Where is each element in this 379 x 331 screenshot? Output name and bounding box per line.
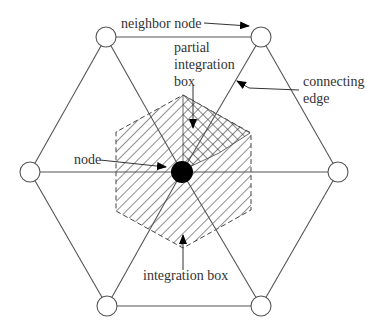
integration-box-diagram: neighbor node partial integration box co… xyxy=(0,0,379,331)
neighbor-node-arrow xyxy=(204,23,249,26)
node-right xyxy=(328,162,348,182)
connecting-edge-label-1: connecting xyxy=(303,74,364,89)
connecting-edge-arrow xyxy=(237,81,299,90)
connecting-edge-label-2: edge xyxy=(303,91,329,106)
node-left xyxy=(20,162,40,182)
node-label: node xyxy=(74,152,101,167)
partial-integration-box-label-1: partial xyxy=(174,40,210,55)
neighbor-node-label: neighbor node xyxy=(121,16,201,31)
integration-box-label: integration box xyxy=(143,268,228,283)
node-top-left xyxy=(96,27,116,47)
center-node xyxy=(171,161,193,183)
node-top-right xyxy=(251,27,271,47)
node-bottom-left xyxy=(97,296,117,316)
node-bottom-right xyxy=(251,296,271,316)
partial-integration-box-label-2: integration xyxy=(174,57,235,72)
partial-integration-box-label-3: box xyxy=(174,74,195,89)
